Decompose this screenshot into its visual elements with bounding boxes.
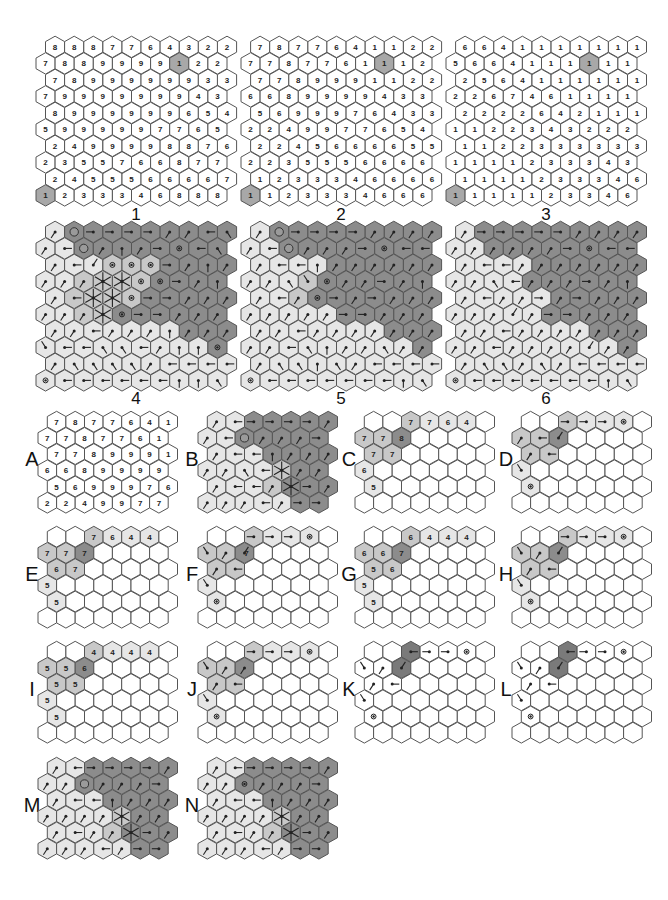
cell-value: 8: [187, 142, 192, 151]
cell-value: 2: [587, 125, 592, 134]
cell-value: 1: [616, 43, 621, 52]
cell-value: 3: [558, 175, 563, 184]
cell-value: 2: [258, 142, 263, 151]
cell-value: 2: [539, 175, 544, 184]
cell-value: 4: [511, 59, 516, 68]
cell-value: 6: [401, 191, 406, 200]
hex-cell: 7: [150, 492, 169, 513]
cell-value: 3: [597, 175, 602, 184]
cell-value: 1: [166, 450, 171, 459]
cell-value: 8: [72, 76, 77, 85]
cell-value: 9: [148, 109, 153, 118]
cell-value: 4: [353, 175, 358, 184]
cell-value: 1: [363, 59, 368, 68]
hex-cell: 9: [112, 492, 131, 513]
panel-G: G64446675655: [341, 526, 494, 628]
sink-dot: [216, 346, 218, 348]
hex-cell: [198, 607, 217, 628]
cell-value: 3: [625, 158, 630, 167]
hex-cell: [291, 722, 310, 743]
basin-marker-icon: [70, 228, 78, 236]
cell-value: 6: [196, 125, 201, 134]
cell-value: 1: [520, 175, 525, 184]
cell-value: 7: [315, 43, 320, 52]
hex-cell: [392, 492, 411, 513]
cell-value: 6: [362, 466, 367, 475]
panel-L: L: [500, 641, 651, 743]
panel-label: F: [186, 563, 198, 585]
panel-label: G: [341, 563, 357, 585]
hex-cell: [112, 722, 131, 743]
cell-value: 4: [363, 191, 368, 200]
cell-value: 1: [568, 59, 573, 68]
cell-value: 2: [287, 191, 292, 200]
grid-caption: 3: [541, 205, 550, 224]
cell-value: 6: [430, 175, 435, 184]
cell-value: 6: [54, 565, 59, 574]
cell-value: 3: [187, 43, 192, 52]
cell-value: 2: [196, 59, 201, 68]
sink-dot: [111, 264, 113, 266]
cell-value: 1: [482, 175, 487, 184]
cell-value: 4: [501, 43, 506, 52]
cell-value: 2: [430, 76, 435, 85]
cell-value: 1: [587, 59, 592, 68]
cell-value: 2: [501, 109, 506, 118]
cell-value: 8: [277, 43, 282, 52]
cell-value: 7: [45, 434, 50, 443]
hex-cell: [131, 722, 150, 743]
hex-cell: [217, 492, 236, 513]
cell-value: 6: [492, 59, 497, 68]
cell-value: 2: [53, 142, 58, 151]
cell-value: 7: [110, 43, 115, 52]
cell-value: 7: [399, 549, 404, 558]
panel-label: B: [185, 448, 198, 470]
cell-value: 5: [64, 664, 69, 673]
sink-dot: [215, 600, 217, 602]
cell-value: 4: [464, 418, 469, 427]
cell-value: 5: [54, 483, 59, 492]
hex-cell: [94, 722, 113, 743]
cell-value: 5: [54, 598, 59, 607]
cell-value: 4: [520, 76, 525, 85]
hex-cell: [272, 607, 291, 628]
cell-value: 1: [463, 142, 468, 151]
cell-value: 8: [82, 59, 87, 68]
cell-value: 5: [45, 696, 50, 705]
hex-cell: [254, 722, 273, 743]
cell-value: 3: [597, 142, 602, 151]
hex-cell: [531, 607, 550, 628]
cell-value: 1: [520, 43, 525, 52]
cell-value: 7: [73, 565, 78, 574]
hex-cell: [568, 607, 587, 628]
sink-dot: [249, 379, 251, 381]
cell-value: 5: [315, 142, 320, 151]
cell-value: 7: [277, 76, 282, 85]
cell-value: 9: [157, 466, 162, 475]
cell-value: 8: [91, 43, 96, 52]
cell-value: 7: [371, 450, 376, 459]
cell-value: 9: [101, 59, 106, 68]
cell-value: 7: [215, 158, 220, 167]
cell-value: 1: [530, 59, 535, 68]
cell-value: 9: [120, 59, 125, 68]
cell-value: 9: [306, 125, 311, 134]
cell-value: 4: [129, 648, 134, 657]
cell-value: 6: [472, 59, 477, 68]
hex-cell: [531, 722, 550, 743]
hex-cell: [310, 607, 329, 628]
cell-value: 6: [401, 158, 406, 167]
hex-cell: [448, 492, 467, 513]
panel-K: K: [342, 641, 494, 743]
cell-value: 1: [501, 175, 506, 184]
hex-cell: [241, 370, 260, 391]
cell-value: 6: [392, 142, 397, 151]
cell-value: 2: [511, 125, 516, 134]
cell-value: 8: [177, 158, 182, 167]
cell-value: 2: [430, 43, 435, 52]
hex-cell: [198, 492, 217, 513]
cell-value: 1: [558, 76, 563, 85]
cell-value: 9: [129, 450, 134, 459]
cell-value: 5: [362, 581, 367, 590]
panel-label: E: [25, 563, 38, 585]
